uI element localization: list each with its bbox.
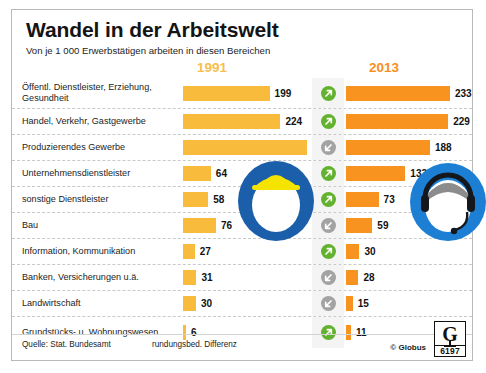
bar-cell-2013: 188 bbox=[344, 135, 472, 160]
chart-row: Landwirtschaft3015 bbox=[12, 291, 472, 317]
arrow-up-right-icon bbox=[321, 166, 336, 181]
bar-2013 bbox=[346, 270, 358, 285]
category-label: Banken, Versicherungen u.ä. bbox=[12, 265, 183, 290]
year-label-2013: 2013 bbox=[369, 60, 399, 75]
bar-cell-2013: 15 bbox=[344, 291, 472, 316]
bar-2013 bbox=[346, 86, 450, 101]
arrow-down-left-icon bbox=[321, 218, 336, 233]
bar-cell-1991: 64 bbox=[183, 161, 312, 186]
category-label: Produzierendes Gewerbe bbox=[12, 135, 183, 160]
bar-2013 bbox=[346, 140, 430, 155]
bar-cell-1991: 224 bbox=[183, 109, 312, 134]
bar-1991 bbox=[183, 86, 270, 101]
bar-2013 bbox=[346, 166, 405, 181]
arrow-down-left-icon bbox=[321, 140, 336, 155]
chart-row: Banken, Versicherungen u.ä.3128 bbox=[12, 265, 472, 291]
source-text: Quelle: Stat. Bundesamt bbox=[22, 340, 111, 349]
bar-value-1991: 27 bbox=[200, 246, 211, 257]
bar-2013 bbox=[346, 296, 353, 311]
bar-cell-1991: 285 bbox=[183, 135, 312, 160]
bar-value-1991: 224 bbox=[285, 116, 302, 127]
bar-value-1991: 199 bbox=[275, 88, 292, 99]
chart-row: Unternehmensdienstleister64133 bbox=[12, 161, 472, 187]
category-label: Unternehmensdienstleister bbox=[12, 161, 183, 186]
category-label: Öffentl. Dienstleister, Erziehung, Gesun… bbox=[12, 78, 183, 108]
footer: Quelle: Stat. Bundesamt rundungsbed. Dif… bbox=[12, 334, 472, 360]
arrow-up-right-icon bbox=[321, 86, 336, 101]
bar-cell-1991: 199 bbox=[183, 78, 312, 108]
chart-row: Bau7659 bbox=[12, 213, 472, 239]
bar-value-1991: 64 bbox=[216, 168, 227, 179]
trend-cell bbox=[312, 213, 344, 238]
bar-cell-1991: 30 bbox=[183, 291, 312, 316]
trend-cell bbox=[312, 265, 344, 290]
arrow-down-left-icon bbox=[321, 296, 336, 311]
chart-row: Produzierendes Gewerbe285188 bbox=[12, 135, 472, 161]
bar-value-2013: 59 bbox=[377, 220, 388, 231]
bar-cell-2013: 30 bbox=[344, 239, 472, 264]
bar-2013 bbox=[346, 114, 448, 129]
year-header-row: 1991 2013 bbox=[12, 60, 472, 77]
bar-2013 bbox=[346, 218, 372, 233]
bar-cell-2013: 28 bbox=[344, 265, 472, 290]
arrow-up-right-icon bbox=[321, 244, 336, 259]
rounding-note: rundungsbed. Differenz bbox=[152, 340, 237, 349]
bar-value-2013: 30 bbox=[364, 246, 375, 257]
globus-logo: G 6197 bbox=[434, 321, 466, 357]
bar-value-2013: 133 bbox=[410, 168, 427, 179]
arrow-down-left-icon bbox=[321, 270, 336, 285]
trend-cell bbox=[312, 135, 344, 160]
bar-value-2013: 28 bbox=[363, 272, 374, 283]
category-label: Handel, Verkehr, Gastgewerbe bbox=[12, 109, 183, 134]
bar-1991 bbox=[183, 244, 195, 259]
bar-1991 bbox=[183, 166, 211, 181]
bar-2013 bbox=[346, 192, 379, 207]
bar-cell-2013: 233 bbox=[344, 78, 472, 108]
chart-row: Information, Kommunikation2730 bbox=[12, 239, 472, 265]
year-label-1991: 1991 bbox=[197, 60, 227, 75]
trend-cell bbox=[312, 78, 344, 108]
bar-cell-2013: 73 bbox=[344, 187, 472, 212]
bar-1991 bbox=[183, 296, 196, 311]
bar-cell-2013: 229 bbox=[344, 109, 472, 134]
bar-2013 bbox=[346, 244, 359, 259]
bar-cell-1991: 31 bbox=[183, 265, 312, 290]
trend-cell bbox=[312, 239, 344, 264]
category-label: sonstige Dienstleister bbox=[12, 187, 183, 212]
arrow-up-right-icon bbox=[321, 192, 336, 207]
trend-cell bbox=[312, 109, 344, 134]
trend-cell bbox=[312, 161, 344, 186]
bar-cell-2013: 59 bbox=[344, 213, 472, 238]
chart-row: Handel, Verkehr, Gastgewerbe224229 bbox=[12, 109, 472, 135]
bar-1991 bbox=[183, 140, 307, 155]
copyright-text: © Globus bbox=[390, 343, 426, 352]
bar-cell-1991: 27 bbox=[183, 239, 312, 264]
bar-value-2013: 73 bbox=[384, 194, 395, 205]
category-label: Bau bbox=[12, 213, 183, 238]
bar-value-2013: 229 bbox=[453, 116, 470, 127]
bar-1991 bbox=[183, 218, 216, 233]
bar-1991 bbox=[183, 192, 208, 207]
chart-row: sonstige Dienstleister5873 bbox=[12, 187, 472, 213]
chart-row: Öffentl. Dienstleister, Erziehung, Gesun… bbox=[12, 78, 472, 109]
bar-value-2013: 233 bbox=[455, 88, 472, 99]
bar-chart: Öffentl. Dienstleister, Erziehung, Gesun… bbox=[12, 78, 472, 348]
bar-value-1991: 58 bbox=[213, 194, 224, 205]
page-title: Wandel in der Arbeitswelt bbox=[26, 18, 472, 42]
bar-1991 bbox=[183, 114, 280, 129]
trend-cell bbox=[312, 291, 344, 316]
bar-cell-1991: 76 bbox=[183, 213, 312, 238]
bar-value-2013: 15 bbox=[358, 298, 369, 309]
infographic-panel: Wandel in der Arbeitswelt Von je 1 000 E… bbox=[11, 9, 473, 361]
category-label: Information, Kommunikation bbox=[12, 239, 183, 264]
category-label: Landwirtschaft bbox=[12, 291, 183, 316]
bar-value-2013: 188 bbox=[435, 142, 452, 153]
page-subtitle: Von je 1 000 Erwerbstätigen arbeiten in … bbox=[26, 45, 472, 57]
bar-cell-1991: 58 bbox=[183, 187, 312, 212]
globus-logo-number: 6197 bbox=[435, 345, 465, 356]
bar-value-1991: 31 bbox=[201, 272, 212, 283]
trend-cell bbox=[312, 187, 344, 212]
arrow-up-right-icon bbox=[321, 114, 336, 129]
bar-1991 bbox=[183, 270, 196, 285]
bar-value-1991: 76 bbox=[221, 220, 232, 231]
